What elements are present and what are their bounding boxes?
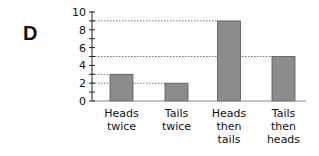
y-tick-label: 2 bbox=[79, 77, 86, 90]
bar-2 bbox=[165, 83, 188, 101]
y-tick-label: 8 bbox=[79, 24, 86, 37]
category-label: Tails bbox=[164, 107, 189, 120]
bar-chart: 0246810HeadstwiceTailstwiceHeadsthentail… bbox=[0, 0, 319, 156]
category-label: twice bbox=[107, 120, 136, 133]
bar-3 bbox=[218, 21, 241, 101]
category-label: then bbox=[271, 120, 296, 133]
y-tick-label: 6 bbox=[79, 42, 86, 55]
category-label: tails bbox=[218, 133, 241, 146]
category-label: twice bbox=[162, 120, 191, 133]
bar-1 bbox=[110, 74, 133, 101]
y-tick-label: 4 bbox=[79, 59, 86, 72]
y-tick-label: 10 bbox=[72, 6, 86, 19]
y-tick-label: 0 bbox=[79, 95, 86, 108]
category-label: Tails bbox=[271, 107, 296, 120]
category-label: Heads bbox=[212, 107, 247, 120]
category-label: Heads bbox=[104, 107, 139, 120]
bar-4 bbox=[272, 57, 295, 102]
category-label: heads bbox=[267, 133, 300, 146]
category-label: then bbox=[216, 120, 241, 133]
